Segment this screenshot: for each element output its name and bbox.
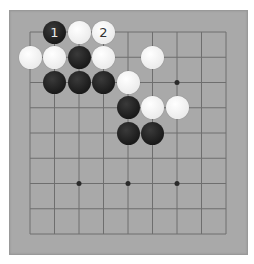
black-stone xyxy=(92,71,115,94)
white-stone: 2 xyxy=(92,21,115,44)
black-stone xyxy=(68,71,91,94)
white-stone xyxy=(92,46,115,69)
white-stone xyxy=(43,46,66,69)
white-stone xyxy=(19,46,42,69)
black-stone xyxy=(117,122,140,145)
star-point-icon xyxy=(77,181,82,186)
move-number-label: 2 xyxy=(99,26,107,39)
white-stone xyxy=(141,46,164,69)
black-stone xyxy=(43,71,66,94)
black-stone xyxy=(68,46,91,69)
black-stone xyxy=(117,96,140,119)
white-stone xyxy=(166,96,189,119)
black-stone: 1 xyxy=(43,21,66,44)
white-stone xyxy=(68,21,91,44)
white-stone xyxy=(117,71,140,94)
star-point-icon xyxy=(175,80,180,85)
star-point-icon xyxy=(175,181,180,186)
move-number-label: 1 xyxy=(50,26,58,39)
black-stone xyxy=(141,122,164,145)
star-point-icon xyxy=(126,181,131,186)
